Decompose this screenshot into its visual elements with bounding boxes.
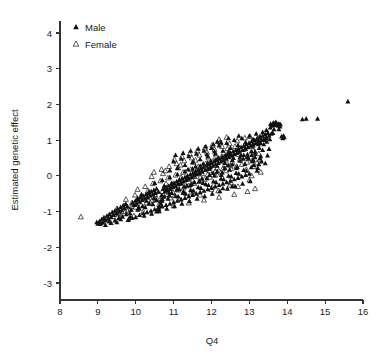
- y-axis-title: Estimated genetic effect: [9, 109, 20, 211]
- y-tick-label: 4: [47, 28, 52, 39]
- x-tick-label: 10: [130, 306, 141, 317]
- scatter-plot-figure: -3-2-1012348910111213141516 Q4 Estimated…: [0, 0, 377, 356]
- y-tick-label: -3: [44, 278, 52, 289]
- y-tick-label: -2: [44, 242, 52, 253]
- legend-label: Female: [85, 39, 117, 50]
- x-tick-label: 16: [358, 306, 369, 317]
- x-tick-label: 14: [282, 306, 293, 317]
- y-tick-label: 2: [47, 99, 52, 110]
- x-tick-label: 15: [320, 306, 331, 317]
- x-tick-label: 9: [95, 306, 100, 317]
- x-tick-label: 12: [206, 306, 217, 317]
- plot-canvas: -3-2-1012348910111213141516 Q4 Estimated…: [0, 0, 377, 356]
- y-tick-label: 0: [47, 170, 52, 181]
- x-tick-label: 11: [169, 306, 179, 317]
- y-tick-label: 3: [47, 63, 52, 74]
- x-axis-title: Q4: [206, 335, 219, 346]
- legend-label: Male: [85, 22, 106, 33]
- x-tick-label: 8: [57, 306, 62, 317]
- x-tick-label: 13: [244, 306, 255, 317]
- y-tick-label: 1: [47, 135, 52, 146]
- y-tick-label: -1: [44, 206, 52, 217]
